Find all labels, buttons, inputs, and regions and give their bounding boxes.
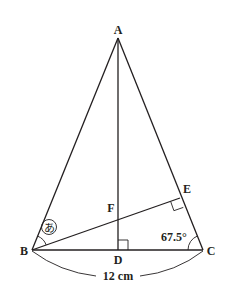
segment-ac xyxy=(118,38,203,250)
angle-arc-b xyxy=(38,236,47,245)
angle-c-value: 67.5° xyxy=(161,230,187,244)
label-d: D xyxy=(114,253,123,267)
dimension-arc-left xyxy=(32,251,96,276)
triangle-diagram: あ A B C D E F 67.5° 12 cm xyxy=(0,0,229,301)
angle-label-a: あ xyxy=(44,222,55,234)
segment-ab xyxy=(32,38,118,250)
label-a: A xyxy=(114,23,123,37)
angle-arc-c xyxy=(188,236,197,250)
label-f: F xyxy=(107,201,114,215)
dimension-arc-right xyxy=(140,251,203,276)
label-b: B xyxy=(20,244,28,258)
label-e: E xyxy=(183,182,191,196)
label-c: C xyxy=(207,244,216,258)
right-angle-mark-d xyxy=(118,240,128,250)
dimension-bc-label: 12 cm xyxy=(103,269,133,283)
right-angle-mark-e xyxy=(171,201,184,210)
geometry-figure: あ A B C D E F 67.5° 12 cm xyxy=(0,0,229,301)
